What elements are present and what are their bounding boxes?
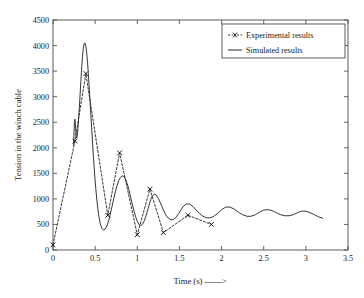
legend-label-experimental: Experimental results [246, 31, 314, 40]
y-tick-label: 1000 [33, 195, 49, 204]
y-tick-label: 2000 [33, 144, 49, 153]
chart-legend: Experimental results Simulated results [222, 24, 345, 58]
y-tick-label: 4500 [33, 16, 49, 25]
chart-figure: 00.511.522.533.5 05001000150020002500300… [0, 0, 364, 298]
series-experimental-results [53, 74, 211, 245]
legend-label-simulated: Simulated results [246, 46, 303, 55]
chart-canvas: 00.511.522.533.5 05001000150020002500300… [0, 0, 364, 298]
x-tick-label: 0.5 [90, 254, 100, 263]
x-tick-label: 1.5 [174, 254, 184, 263]
y-tick-label: 500 [37, 220, 49, 229]
x-axis-tick-labels: 00.511.522.533.5 [51, 254, 353, 263]
y-tick-label: 1500 [33, 169, 49, 178]
y-tick-label: 2500 [33, 118, 49, 127]
data-point-marker [209, 222, 213, 226]
x-tick-label: 0 [51, 254, 55, 263]
x-tick-label: 2 [220, 254, 224, 263]
y-tick-label: 3000 [33, 93, 49, 102]
x-tick-label: 3.5 [343, 254, 353, 263]
series-simulated-results [74, 43, 323, 230]
x-tick-label: 3 [304, 254, 308, 263]
y-axis-tick-labels: 050010001500200025003000350040004500 [33, 16, 49, 255]
series-experimental-markers [51, 72, 214, 247]
y-tick-label: 4000 [33, 42, 49, 51]
y-tick-label: 0 [45, 246, 49, 255]
x-axis-title: Time (s) ——> [173, 276, 226, 286]
data-point-marker [186, 213, 190, 217]
x-tick-label: 2.5 [259, 254, 269, 263]
y-tick-label: 3500 [33, 67, 49, 76]
x-tick-label: 1 [135, 254, 139, 263]
y-axis-title: Tension in the winch cable [13, 89, 23, 181]
